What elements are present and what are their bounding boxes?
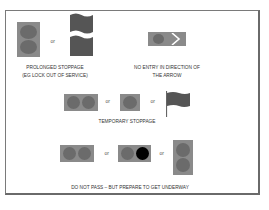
- signal-two-lights-horizontal: [60, 145, 94, 162]
- grey-lamp-icon: [176, 158, 190, 172]
- grey-lamp-icon: [20, 40, 37, 54]
- caption-line: TEMPORARY STOPPAGE: [85, 117, 170, 125]
- or-separator: or: [50, 38, 55, 44]
- caption-temporary-stoppage: TEMPORARY STOPPAGE: [85, 117, 170, 125]
- grey-lamp-icon: [78, 147, 91, 160]
- or-separator: or: [104, 150, 109, 156]
- caption-line: THE ARROW: [125, 71, 210, 79]
- signal-arrow: [148, 32, 186, 46]
- or-separator: or: [159, 150, 164, 156]
- black-lamp-icon: [136, 147, 149, 160]
- caption-line: NO ENTRY IN DIRECTION OF: [125, 63, 210, 71]
- signal-one-light: [120, 94, 140, 111]
- grey-lamp-icon: [20, 25, 37, 39]
- caption-line: DO NOT PASS – BUT PREPARE TO GET UNDERWA…: [62, 183, 198, 191]
- wavy-flag-icon: [70, 12, 93, 57]
- chevron-right-icon: [170, 33, 182, 45]
- signal-grey-and-black-light: [118, 145, 151, 162]
- signal-two-lights-horizontal: [64, 94, 98, 111]
- grey-lamp-icon: [153, 34, 164, 44]
- grey-lamp-icon: [82, 96, 95, 109]
- or-separator: or: [150, 98, 155, 104]
- grey-lamp-icon: [63, 147, 76, 160]
- grey-lamp-icon: [176, 143, 190, 157]
- caption-no-entry: NO ENTRY IN DIRECTION OF THE ARROW: [125, 63, 210, 79]
- signal-two-lights-vertical: [17, 22, 40, 57]
- grey-lamp-icon: [121, 147, 134, 160]
- grey-lamp-icon: [67, 96, 80, 109]
- flag-icon: [166, 91, 191, 117]
- caption-line: (EG LOCK OUT OF SERVICE): [13, 71, 98, 79]
- grey-lamp-icon: [123, 96, 137, 109]
- caption-do-not-pass: DO NOT PASS – BUT PREPARE TO GET UNDERWA…: [62, 183, 198, 191]
- signal-two-lights-vertical: [173, 140, 193, 175]
- or-separator: or: [105, 98, 110, 104]
- caption-prolonged-stoppage: PROLONGED STOPPAGE (EG LOCK OUT OF SERVI…: [13, 63, 98, 79]
- caption-line: PROLONGED STOPPAGE: [13, 63, 98, 71]
